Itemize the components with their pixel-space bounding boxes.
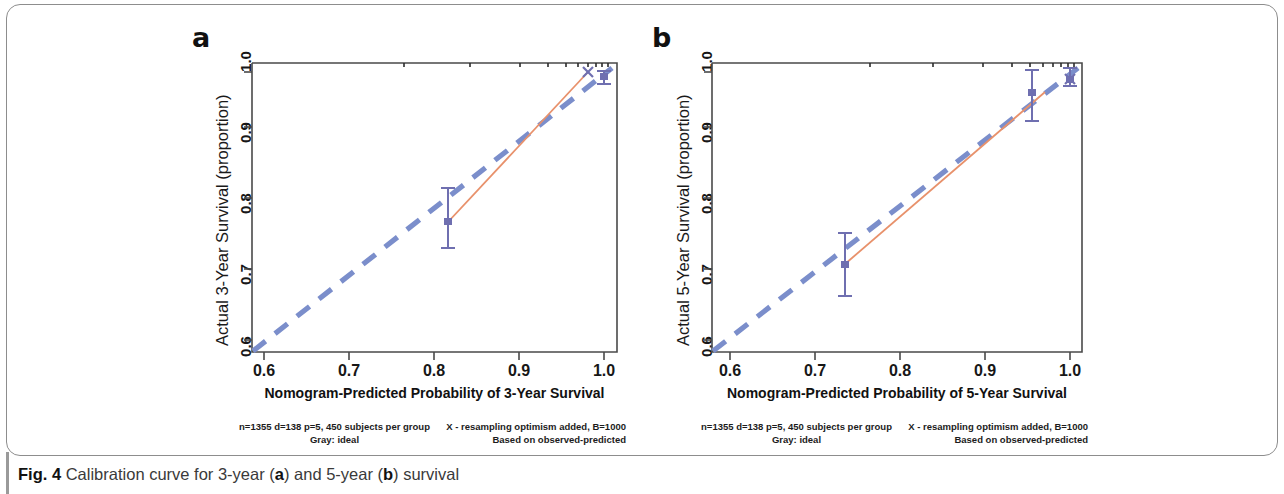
panel-b-xtick-0: 0.6 <box>710 362 750 380</box>
panel-b-calibration-line <box>845 92 1045 264</box>
panel-b-xtick-2: 0.8 <box>880 362 920 380</box>
panel-b-x-axis-title: Nomogram-Predicted Probability of 5-Year… <box>712 385 1082 401</box>
figure-caption: Fig. 4 Calibration curve for 3-year (a) … <box>18 460 1258 490</box>
caption-ref-b: b <box>383 465 393 483</box>
panel-b-y-ticks <box>704 72 712 340</box>
panel-b-error-bars <box>838 68 1077 296</box>
figure-page: a Actual 3-Year Survival (proportion) 0.… <box>0 0 1284 494</box>
caption-text-1: Calibration curve for 3-year ( <box>61 465 275 483</box>
panel-b-footnote-right-line1: X - resampling optimism added, B=1000 <box>898 420 1088 433</box>
caption-figure-number: Fig. 4 <box>18 465 61 483</box>
panel-b-xtick-3: 0.9 <box>965 362 1005 380</box>
panel-b-footnote-right: X - resampling optimism added, B=1000 Ba… <box>898 420 1088 446</box>
panel-a-xtick-0: 0.6 <box>244 362 284 380</box>
caption-left-rule <box>6 452 9 494</box>
panel-a-footnote-left-line2: Gray: ideal <box>232 433 437 446</box>
caption-text-3: ) survival <box>393 465 459 483</box>
panel-b-x-ticks <box>730 352 1070 360</box>
panel-a-footnote-left: n=1355 d=138 p=5, 450 subjects per group… <box>232 420 437 446</box>
panel-b-footnote-left-line1: n=1355 d=138 p=5, 450 subjects per group <box>694 420 899 433</box>
panel-a-footnote-left-line1: n=1355 d=138 p=5, 450 subjects per group <box>232 420 437 433</box>
panel-b-plot <box>450 0 1092 400</box>
panel-a-y-ticks <box>244 72 252 340</box>
panel-a-xtick-1: 0.7 <box>329 362 369 380</box>
figure-area: a Actual 3-Year Survival (proportion) 0.… <box>0 0 1284 455</box>
panel-b-footnote-left: n=1355 d=138 p=5, 450 subjects per group… <box>694 420 899 446</box>
caption-text-2: ) and 5-year ( <box>284 465 383 483</box>
panel-b-xtick-4: 1.0 <box>1050 362 1090 380</box>
panel-b-xtick-1: 0.7 <box>795 362 835 380</box>
caption-ref-a: a <box>275 465 284 483</box>
panel-b: b Actual 5-Year Survival (proportion) 0.… <box>450 0 1092 455</box>
panel-b-footnote-left-line2: Gray: ideal <box>694 433 899 446</box>
panel-a-xtick-2: 0.8 <box>414 362 454 380</box>
panel-b-footnote-right-line2: Based on observed-predicted <box>898 433 1088 446</box>
